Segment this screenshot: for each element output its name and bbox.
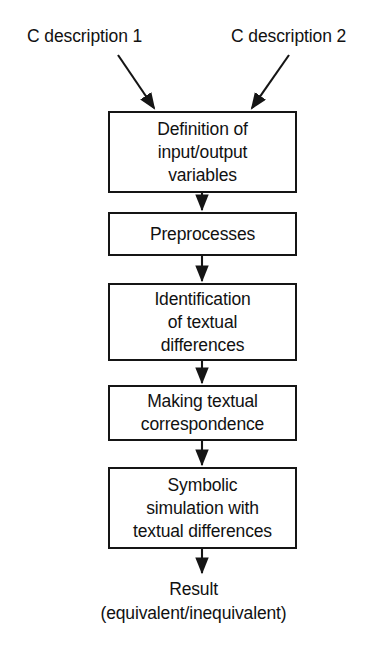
terminal-result-line-2: (equivalent/inequivalent) — [0, 601, 387, 625]
process-box-simulation-label: Symbolic simulation with textual differe… — [129, 474, 276, 543]
process-box-definition: Definition of input/output variables — [108, 111, 297, 193]
input-label-c-description-2: C description 2 — [231, 26, 346, 46]
arrow-desc1-to-definition — [118, 55, 154, 108]
arrow-desc2-to-definition — [252, 55, 289, 108]
input-label-c-description-1: C description 1 — [27, 26, 142, 46]
flowchart-diagram: C description 1 C description 2 Definiti… — [0, 0, 387, 667]
process-box-simulation: Symbolic simulation with textual differe… — [108, 467, 297, 549]
process-box-definition-label: Definition of input/output variables — [153, 118, 251, 187]
process-box-preprocesses: Preprocesses — [108, 212, 297, 256]
process-box-correspondence-label: Making textual correspondence — [137, 390, 268, 436]
process-box-identification: Identification of textual differences — [108, 283, 297, 361]
process-box-preprocesses-label: Preprocesses — [146, 223, 259, 246]
terminal-result: Result (equivalent/inequivalent) — [0, 577, 387, 625]
terminal-result-line-1: Result — [0, 577, 387, 601]
process-box-correspondence: Making textual correspondence — [108, 385, 297, 441]
process-box-identification-label: Identification of textual differences — [150, 288, 254, 357]
